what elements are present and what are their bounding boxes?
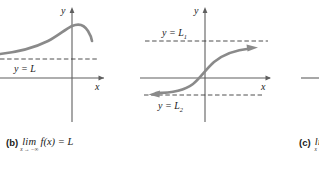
- panel-b-limit-body: f(x) = L: [40, 136, 73, 147]
- x-axis-arrow-icon: [266, 76, 272, 81]
- x-axis-arrow-icon: [99, 76, 105, 81]
- panel-b-caption: (b) lim x → −∞ f(x) = L: [6, 133, 73, 149]
- panel-b-caption-label: (b): [6, 137, 18, 148]
- panel-partial-graph: [285, 0, 319, 173]
- curve-left-arrow-icon: [149, 91, 161, 98]
- y-axis-arrow-icon: [70, 7, 75, 13]
- panel-partial: [285, 0, 319, 173]
- x-axis-label: x: [94, 81, 100, 92]
- y-axis-arrow-icon: [203, 7, 208, 13]
- y-axis-label: y: [193, 5, 199, 16]
- curve-right-arrow-icon: [247, 45, 259, 52]
- curve-f: [0, 25, 92, 54]
- y-axis-label: y: [60, 5, 66, 16]
- curve-f: [156, 49, 250, 94]
- panel-b-graph: x y y = L: [0, 0, 140, 130]
- panel-b-limit-subscript: x → −∞: [20, 147, 38, 152]
- limits-figure: x y y = L (b) lim x → −∞ f(x) = L: [0, 0, 319, 173]
- panel-c: x y y = L1 y = L2 (c) lim x → ∞ f(x) = L…: [140, 0, 285, 173]
- x-axis-label: x: [260, 81, 266, 92]
- asymptote-label-L: y = L: [13, 63, 36, 74]
- panel-b: x y y = L (b) lim x → −∞ f(x) = L: [0, 0, 140, 173]
- asymptote-label-L1: y = L1: [161, 27, 187, 40]
- panel-b-limit: lim x → −∞: [22, 137, 36, 148]
- panel-c-graph: x y y = L1 y = L2: [140, 0, 285, 130]
- asymptote-label-L2: y = L2: [157, 100, 184, 113]
